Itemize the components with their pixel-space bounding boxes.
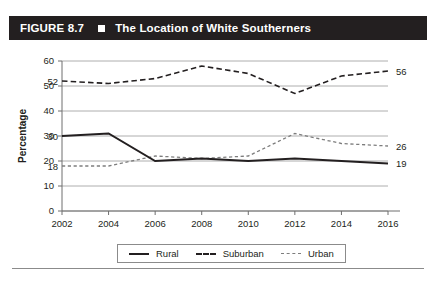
x-axis-tick-label: 2016: [377, 218, 398, 229]
x-axis-tick-label: 2008: [191, 218, 212, 229]
filled-square-icon: [98, 25, 105, 32]
figure-container: FIGURE 8.7 The Location of White Souther…: [0, 0, 436, 284]
legend-item-suburban[interactable]: Suburban: [196, 248, 264, 259]
legend-item-rural[interactable]: Rural: [129, 248, 179, 259]
x-axis-tick-label: 2006: [145, 218, 166, 229]
chart-legend: Rural Suburban Urban: [117, 244, 346, 263]
chart-area: 0102030405060Percentage20022004200620082…: [0, 44, 436, 240]
end-value-label-urban: 26: [396, 141, 407, 152]
end-value-label-rural: 19: [396, 158, 407, 169]
figure-header-bar: FIGURE 8.7 The Location of White Souther…: [9, 16, 427, 40]
x-axis-tick-label: 2014: [331, 218, 352, 229]
figure-number: FIGURE 8.7: [20, 22, 84, 34]
x-axis-tick-label: 2010: [238, 218, 259, 229]
start-value-label-urban: 18: [47, 161, 58, 172]
y-axis-tick-label: 0: [49, 205, 54, 216]
x-axis-tick-label: 2002: [51, 218, 72, 229]
y-axis-tick-label: 40: [43, 105, 54, 116]
y-axis-title: Percentage: [17, 109, 28, 163]
legend-item-urban[interactable]: Urban: [281, 248, 334, 259]
bottom-divider: [12, 268, 424, 269]
legend-label-rural: Rural: [156, 248, 179, 259]
y-axis-tick-label: 10: [43, 180, 54, 191]
series-line-rural: [62, 134, 388, 164]
legend-label-urban: Urban: [308, 248, 334, 259]
legend-label-suburban: Suburban: [223, 248, 264, 259]
dashed-line-swatch: [196, 253, 216, 255]
line-chart: 0102030405060Percentage20022004200620082…: [0, 44, 436, 240]
start-value-label-suburban: 52: [47, 76, 58, 87]
dotted-line-swatch: [281, 253, 301, 254]
start-value-label-rural: 30: [47, 131, 58, 142]
x-axis-tick-label: 2004: [98, 218, 119, 229]
end-value-label-suburban: 56: [396, 66, 407, 77]
y-axis-tick-label: 60: [43, 55, 54, 66]
solid-line-swatch: [129, 253, 149, 255]
series-line-suburban: [62, 66, 388, 94]
figure-title: The Location of White Southerners: [115, 22, 311, 34]
x-axis-tick-label: 2012: [284, 218, 305, 229]
